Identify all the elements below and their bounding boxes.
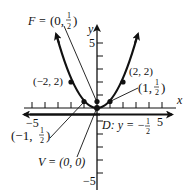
label-left-low-den: 2 xyxy=(40,136,44,145)
focus-label-prefix: F = xyxy=(27,14,46,28)
point-focus xyxy=(94,99,99,104)
parabola-arrow-left xyxy=(56,34,59,43)
label-point-right-high: (2, 2) xyxy=(129,65,153,78)
point-right-low xyxy=(107,99,112,104)
directrix-label-num: 1 xyxy=(146,117,150,126)
label-right-low-open: (1, xyxy=(138,80,152,95)
point-left-high xyxy=(68,79,73,84)
parabola-arrow-right xyxy=(135,34,138,43)
directrix-label: D: y = − 1 2 xyxy=(101,117,150,136)
x-tick-label-5: 5 xyxy=(157,115,163,129)
y-tick-label-5: 5 xyxy=(89,36,95,50)
label-right-low-close: ) xyxy=(161,80,165,95)
focus-label-num: 1 xyxy=(67,11,71,20)
directrix-label-text: D: y = − xyxy=(101,118,145,132)
x-axis-label: x xyxy=(176,93,183,107)
graph-canvas: y x 5 −5 −5 5 F = (0, 1 2 ) (−2, 2) (2, … xyxy=(0,0,193,193)
label-left-low-open: (−1, xyxy=(11,128,32,143)
label-left-low-close: ) xyxy=(46,128,50,143)
label-right-low-num: 1 xyxy=(155,78,159,87)
point-right-high xyxy=(120,79,125,84)
vertex-label: V = (0, 0) xyxy=(38,155,85,169)
label-point-left-low: (−1, 1 2 ) xyxy=(11,126,50,145)
focus-label-close: ) xyxy=(73,13,77,28)
directrix-label-den: 2 xyxy=(146,127,150,136)
label-point-right-low: (1, 1 2 ) xyxy=(138,78,165,97)
focus-label-open: (0, xyxy=(50,13,64,28)
focus-label-den: 2 xyxy=(67,22,71,31)
label-left-low-num: 1 xyxy=(40,126,44,135)
focus-label: F = (0, 1 2 ) xyxy=(27,11,77,31)
label-point-left-high: (−2, 2) xyxy=(33,75,63,88)
y-axis-label: y xyxy=(87,22,94,36)
parabola-figure: y x 5 −5 −5 5 F = (0, 1 2 ) (−2, 2) (2, … xyxy=(0,0,193,193)
label-right-low-den: 2 xyxy=(155,88,159,97)
point-vertex xyxy=(94,105,100,111)
y-tick-label-neg5: −5 xyxy=(83,174,96,188)
